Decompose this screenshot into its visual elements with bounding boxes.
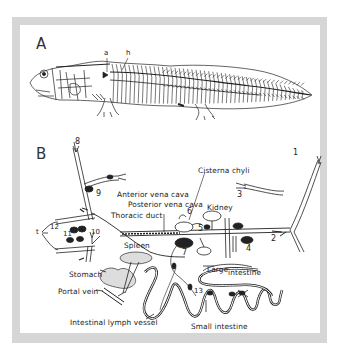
label-intestinal-lymph-vessel: Intestinal lymph vessel — [70, 318, 158, 327]
label-thoracic-duct: Thoracic duct — [111, 211, 162, 220]
label-spleen: Spleen — [124, 241, 150, 250]
segmental-lymph-vessels — [112, 64, 304, 104]
callout-5: 5 — [198, 224, 203, 233]
panel-a-label: A — [36, 35, 46, 53]
salamander-illustration — [30, 58, 312, 120]
label-kidney: Kidney — [207, 203, 233, 212]
callout-1: 1 — [293, 148, 298, 157]
annotation-h: h — [126, 49, 130, 57]
anatomy-drawing — [0, 0, 340, 361]
callout-12: 12 — [50, 223, 59, 231]
label-anterior-vena-cava: Anterior vena cava — [117, 190, 189, 199]
callout-7: 7 — [182, 248, 187, 257]
callout-13: 13 — [194, 287, 203, 295]
callout-4: 4 — [246, 244, 251, 253]
label-cisterna-chyli: Cisterna chyli — [198, 166, 250, 175]
label-small-intestine: Small intestine — [191, 322, 248, 331]
label-portal-vein: Portal vein — [58, 287, 98, 296]
callout-6: 6 — [187, 207, 192, 216]
callout-t: t — [36, 228, 39, 236]
callout-10: 10 — [91, 228, 100, 236]
annotation-a: a — [104, 49, 108, 57]
panel-b-label: B — [36, 145, 46, 163]
callout-2: 2 — [271, 234, 276, 243]
label-large-intestine-2: intestine — [228, 268, 261, 277]
callout-9: 9 — [96, 189, 101, 198]
callout-8: 8 — [75, 137, 80, 146]
label-stomach: Stomach — [69, 270, 102, 279]
label-large-intestine-1: Large — [207, 265, 228, 274]
callout-3: 3 — [237, 190, 242, 199]
callout-11: 11 — [63, 230, 72, 238]
